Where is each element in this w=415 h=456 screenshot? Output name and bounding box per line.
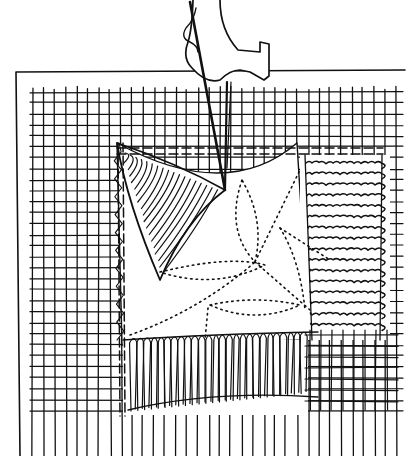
sewing-illustration-svg <box>0 0 415 456</box>
illustration: Sewing machine needle stitching a fabric… <box>0 0 415 456</box>
